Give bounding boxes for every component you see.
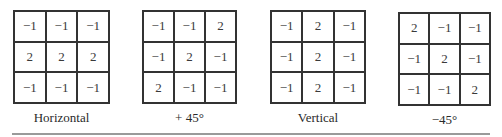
mask-cell: 2 [302,72,333,103]
mask-cell: −1 [46,11,78,42]
mask-cell: 2 [302,42,333,73]
mask-cell: −1 [174,72,205,103]
mask-cell: −1 [205,42,236,73]
mask-cell: 2 [14,42,46,73]
mask-cell: −1 [271,11,302,42]
mask-cell: 2 [174,42,205,73]
mask-caption-plus-45: + 45° [142,110,237,126]
mask-cell: 2 [143,72,174,103]
mask-cell: 2 [302,11,333,42]
mask-cell: −1 [334,42,365,73]
mask-cell: −1 [14,11,46,42]
mask-cell: 2 [460,74,490,105]
mask-cell: −1 [460,13,490,44]
mask-cell: −1 [460,44,490,75]
mask-cell: −1 [334,72,365,103]
mask-cell: −1 [334,11,365,42]
mask-cell: −1 [143,11,174,42]
mask-cell: −1 [429,13,459,44]
mask-grid-minus-45: 2 −1 −1 −1 2 −1 −1 −1 2 [398,12,491,106]
mask-cell: −1 [429,74,459,105]
mask-cell: 2 [399,13,429,44]
mask-cell: 2 [46,42,78,73]
mask-cell: 2 [429,44,459,75]
divider-rule [12,133,490,135]
mask-cell: −1 [77,11,109,42]
mask-cell: −1 [77,72,109,103]
mask-caption-minus-45: −45° [398,112,491,128]
mask-cell: −1 [271,42,302,73]
mask-grid-horizontal: −1 −1 −1 2 2 2 −1 −1 −1 [13,10,110,104]
mask-cell: −1 [174,11,205,42]
mask-cell: −1 [14,72,46,103]
mask-cell: −1 [143,42,174,73]
mask-cell: −1 [46,72,78,103]
mask-grid-plus-45: −1 −1 2 −1 2 −1 2 −1 −1 [142,10,237,104]
mask-cell: −1 [399,44,429,75]
mask-caption-horizontal: Horizontal [13,110,110,126]
mask-grid-vertical: −1 2 −1 −1 2 −1 −1 2 −1 [270,10,366,104]
mask-cell: 2 [205,11,236,42]
mask-cell: 2 [77,42,109,73]
mask-cell: −1 [205,72,236,103]
mask-cell: −1 [271,72,302,103]
mask-cell: −1 [399,74,429,105]
mask-caption-vertical: Vertical [270,110,366,126]
